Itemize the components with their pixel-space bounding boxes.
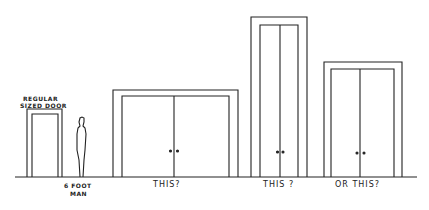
man-label-2: MAN xyxy=(70,190,87,197)
option3-label: OR THIS? xyxy=(335,180,380,189)
regular-door-label-2: SIZED DOOR xyxy=(20,102,67,109)
medium-double-door xyxy=(324,62,402,177)
tall-double-door xyxy=(251,17,307,177)
wide-double-door xyxy=(113,90,238,177)
regular-door-label-1: REGULAR xyxy=(23,95,58,102)
man-silhouette xyxy=(77,117,86,177)
regular-door xyxy=(27,109,62,177)
man-label-1: 6 FOOT xyxy=(64,182,92,189)
option2-label: THIS ? xyxy=(263,180,294,189)
option1-label: THIS? xyxy=(153,180,181,189)
